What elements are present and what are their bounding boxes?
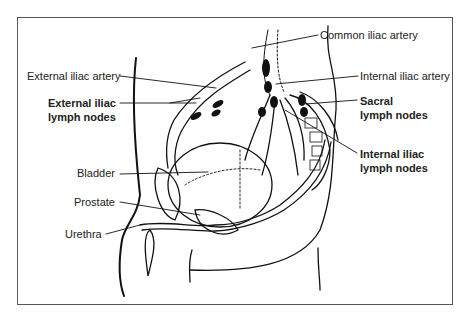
label-internal-iliac-nodes-2: lymph nodes: [360, 162, 428, 175]
lymph-nodes: [189, 59, 308, 122]
label-prostate: Prostate: [74, 196, 115, 209]
label-internal-iliac-artery: Internal iliac artery: [360, 70, 450, 83]
label-sacral-nodes-1: Sacral: [360, 95, 393, 108]
label-external-iliac-artery: External iliac artery: [27, 70, 121, 83]
label-external-iliac-nodes-1: External iliac: [48, 97, 116, 110]
label-common-iliac-artery: Common iliac artery: [320, 29, 418, 42]
label-internal-iliac-nodes-1: Internal iliac: [360, 148, 424, 161]
label-sacral-nodes-2: lymph nodes: [360, 109, 428, 122]
label-bladder: Bladder: [77, 167, 115, 180]
label-external-iliac-nodes-2: lymph nodes: [48, 111, 116, 124]
label-urethra: Urethra: [65, 228, 102, 241]
abdomen-outline: [120, 58, 140, 296]
